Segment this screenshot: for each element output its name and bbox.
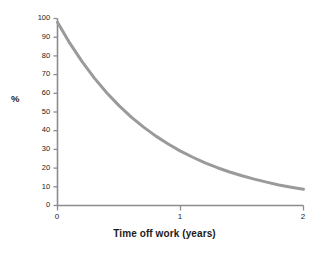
y-tick-label: 60 <box>24 89 50 97</box>
x-tick-label: 1 <box>171 212 189 221</box>
y-tick-label: 40 <box>24 126 50 134</box>
y-tick-label: 70 <box>24 70 50 78</box>
y-tick-label: 50 <box>24 108 50 116</box>
y-tick-label: 100 <box>24 14 50 22</box>
y-tick-label: 10 <box>24 183 50 191</box>
y-tick-label: 20 <box>24 164 50 172</box>
chart-container: 100 90 80 70 60 50 40 30 20 10 0 0 1 2 %… <box>0 0 329 254</box>
x-tick-label: 2 <box>294 212 312 221</box>
y-axis-title: % <box>11 93 19 104</box>
y-tick-label: 30 <box>24 145 50 153</box>
data-series-line <box>58 22 304 189</box>
y-tick-label: 0 <box>24 201 50 209</box>
y-tick-label: 90 <box>24 33 50 41</box>
x-tick-label: 0 <box>48 212 66 221</box>
x-axis-title: Time off work (years) <box>0 228 329 239</box>
y-tick-label: 80 <box>24 52 50 60</box>
